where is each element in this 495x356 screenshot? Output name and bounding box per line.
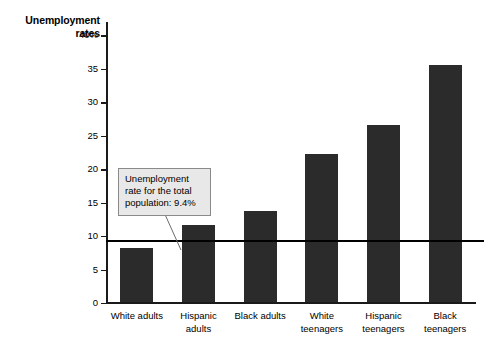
y-tick-mark — [101, 303, 106, 304]
y-axis-line — [106, 22, 108, 303]
y-tick-mark — [101, 270, 106, 271]
y-tick-label: 5 — [93, 263, 98, 276]
x-axis-line — [106, 302, 476, 304]
bar — [305, 154, 338, 302]
y-tick-label: 30 — [87, 95, 98, 108]
y-tick-label: 20 — [87, 162, 98, 175]
y-tick-mark — [101, 102, 106, 103]
bar — [429, 65, 462, 303]
category-label: Black teenagers — [414, 310, 476, 335]
category-label: Black adults — [229, 310, 291, 323]
y-tick-label: 0 — [93, 296, 98, 309]
y-tick-label: 35 — [87, 62, 98, 75]
reference-line — [106, 240, 484, 242]
category-label: White teenagers — [291, 310, 353, 335]
y-tick-mark — [101, 169, 106, 170]
reference-line-callout: Unemployment rate for the total populati… — [118, 168, 211, 216]
y-tick-label: 15 — [87, 196, 98, 209]
category-label: Hispanic adults — [168, 310, 230, 335]
plot-area: 0510152025303540% White adultsHispanic a… — [106, 22, 476, 303]
bar — [244, 211, 277, 302]
bar — [120, 248, 153, 302]
y-tick-mark — [101, 69, 106, 70]
y-tick-mark — [101, 136, 106, 137]
unemployment-rates-bar-chart: Unemployment rates 0510152025303540% Whi… — [0, 0, 495, 356]
y-tick-label: 40% — [79, 28, 98, 41]
y-tick-mark — [101, 35, 106, 36]
category-label: White adults — [106, 310, 168, 323]
y-tick-label: 25 — [87, 129, 98, 142]
bar — [182, 225, 215, 302]
category-label: Hispanic teenagers — [353, 310, 415, 335]
y-tick-mark — [101, 203, 106, 204]
bar — [367, 125, 400, 302]
y-tick-mark — [101, 236, 106, 237]
callout-text: Unemployment rate for the total populati… — [125, 173, 196, 208]
y-tick-label: 10 — [87, 229, 98, 242]
